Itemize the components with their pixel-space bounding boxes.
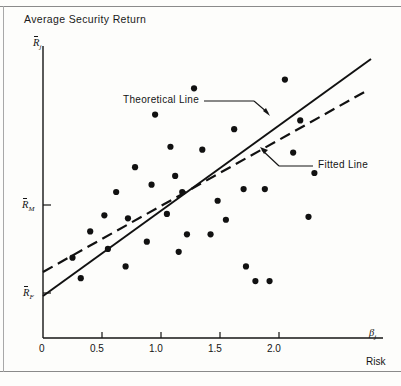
scatter-point [113, 189, 119, 195]
scatter-point [176, 249, 182, 255]
fitted-leader-arrowhead [260, 147, 268, 154]
scatter-point [125, 215, 131, 221]
scatter-point [231, 126, 237, 132]
theoretical-line-annotation: Theoretical Line [123, 94, 199, 105]
y-tick-label-rf: RF [23, 286, 34, 301]
x-axis-caption: Risk [366, 356, 385, 367]
scatter-plot-canvas [0, 0, 401, 386]
scatter-point [311, 170, 317, 176]
scatter-point [184, 231, 190, 237]
scatter-point [241, 186, 247, 192]
scatter-point [172, 173, 178, 179]
x-axis-symbol-label: βj [369, 326, 376, 341]
scatter-point [207, 231, 213, 237]
scatter-point [78, 275, 84, 281]
scatter-point [191, 85, 197, 91]
scatter-point [152, 112, 158, 118]
scatter-point [223, 217, 229, 223]
scatter-point [101, 212, 107, 218]
scatter-point [215, 198, 221, 204]
x-tick-label-0: 0 [39, 343, 45, 354]
regression-lines-group [43, 59, 371, 296]
theoretical-line-solid [43, 59, 371, 296]
x-tick-label-0.5: 0.5 [90, 343, 104, 354]
y-axis-symbol-label: Rj [33, 36, 41, 51]
scatter-point [305, 214, 311, 220]
scatter-points-group [69, 76, 317, 284]
x-tick-label-1.0: 1.0 [149, 343, 163, 354]
scatter-point [148, 182, 154, 188]
scatter-point [290, 149, 296, 155]
fitted-line-dashed [43, 90, 368, 272]
scatter-point [252, 278, 258, 284]
scatter-point [132, 164, 138, 170]
fitted-line-annotation: Fitted Line [318, 159, 368, 170]
scatter-point [123, 263, 129, 269]
y-tick-label-rm: RM [22, 198, 34, 213]
scatter-point [262, 186, 268, 192]
scatter-point [144, 239, 150, 245]
scatter-point [266, 278, 272, 284]
x-tick-label-1.5: 1.5 [208, 343, 222, 354]
scatter-point [179, 189, 185, 195]
scatter-point [199, 147, 205, 153]
figure-container: Average Security Return Rj [0, 0, 401, 386]
scatter-point [105, 246, 111, 252]
scatter-point [243, 263, 249, 269]
annotation-leaders-group [204, 101, 313, 166]
scatter-point [297, 117, 303, 123]
scatter-point [282, 76, 288, 82]
axes-group [43, 46, 383, 338]
scatter-point [87, 228, 93, 234]
scatter-point [69, 255, 75, 261]
scatter-point [164, 211, 170, 217]
scatter-point [167, 144, 173, 150]
x-tick-label-2.0: 2.0 [267, 343, 281, 354]
